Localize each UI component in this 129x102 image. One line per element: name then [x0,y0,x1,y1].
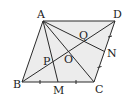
label-a: A [36,8,46,21]
label-n: N [107,47,117,60]
geometry-diagram: A D B C M N O P Q [0,0,129,102]
label-d: D [113,8,122,21]
label-p: P [43,55,51,68]
label-b: B [13,78,21,91]
label-c: C [95,83,103,96]
label-q: Q [79,29,88,42]
label-m: M [53,84,64,97]
label-o: O [64,53,73,66]
